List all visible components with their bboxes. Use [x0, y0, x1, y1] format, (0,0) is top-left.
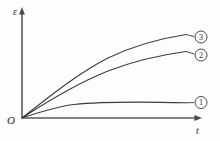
plot-canvas: 3 2 1 ε t O	[0, 0, 220, 141]
x-axis-label: t	[196, 125, 199, 136]
curve-label-2-text: 2	[199, 51, 203, 60]
leader-line-2	[186, 52, 194, 55]
curve-label-3: 3	[195, 31, 207, 43]
x-axis	[22, 115, 202, 121]
leader-line-3	[186, 35, 194, 37]
y-axis-label: ε	[13, 6, 17, 17]
figure-root: 3 2 1 ε t O	[0, 0, 220, 141]
curve-label-1: 1	[195, 97, 207, 109]
curve-label-2: 2	[195, 49, 207, 61]
y-axis	[19, 7, 25, 118]
curve-series-3	[22, 35, 186, 119]
curve-label-3-text: 3	[199, 33, 203, 42]
y-axis-arrowhead	[19, 7, 25, 15]
origin-label: O	[7, 114, 15, 126]
curve-series-1	[22, 102, 186, 118]
curve-series-2	[22, 52, 186, 119]
x-axis-arrowhead	[194, 115, 202, 121]
curve-label-1-text: 1	[199, 98, 203, 107]
